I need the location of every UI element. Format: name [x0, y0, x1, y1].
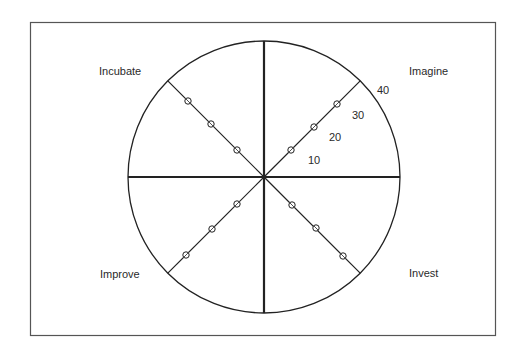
spoke-incubate	[168, 81, 264, 177]
spoke-invest	[264, 177, 360, 273]
quadrant-label-invest: Invest	[409, 267, 438, 279]
tick-label-30: 30	[352, 109, 364, 121]
tick-label-20: 20	[329, 131, 341, 143]
quadrant-label-improve: Improve	[100, 268, 140, 280]
quadrant-label-imagine: Imagine	[409, 65, 448, 77]
spoke-improve	[168, 177, 264, 273]
quadrant-label-incubate: Incubate	[99, 65, 141, 77]
tick-label-40: 40	[377, 84, 389, 96]
tick-label-10: 10	[308, 154, 320, 166]
quadrant-diagram: 10 20 30 40 Imagine Incubate Improve Inv…	[0, 0, 517, 351]
